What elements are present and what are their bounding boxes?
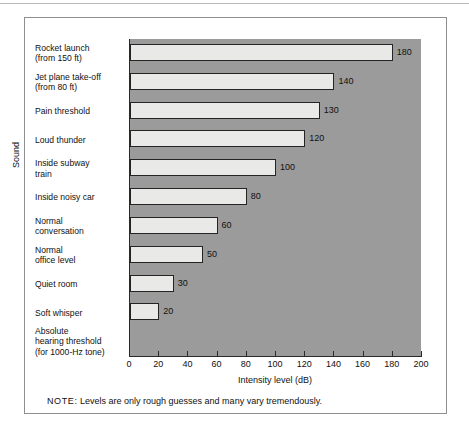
category-label-line: Absolute: [35, 326, 127, 337]
category-label: Normaloffice level: [35, 245, 127, 266]
x-axis-tick: [187, 351, 188, 357]
category-label-line: conversation: [35, 226, 127, 237]
bar-row: 120: [130, 125, 421, 154]
note-text: Levels are only rough guesses and many v…: [80, 396, 322, 406]
x-axis-tick: [275, 351, 276, 357]
category-label-line: Normal: [35, 245, 127, 256]
category-label-line: Jet plane take-off: [35, 72, 127, 83]
bar: [130, 303, 159, 320]
category-label-line: Quiet room: [35, 279, 127, 290]
bar: [130, 246, 203, 263]
x-axis-tick-label: 40: [182, 359, 192, 369]
bar: [130, 188, 247, 205]
x-axis-tick: [246, 351, 247, 357]
category-label: Normalconversation: [35, 216, 127, 237]
category-label-line: (from 80 ft): [35, 82, 127, 93]
plot-area: 1801401301201008060503020: [129, 39, 421, 356]
bar: [130, 159, 276, 176]
bar-row: 80: [130, 183, 421, 212]
bar-row: 50: [130, 241, 421, 270]
x-axis-tick: [333, 351, 334, 357]
bar-value-label: 140: [334, 73, 353, 90]
bar-value-label: 60: [218, 217, 232, 234]
category-label: Jet plane take-off(from 80 ft): [35, 72, 127, 93]
bar-value-label: 30: [174, 275, 188, 292]
x-axis: 020406080100120140160180200: [129, 356, 421, 357]
x-axis-tick-label: 140: [326, 359, 341, 369]
category-label: Absolutehearing threshold(for 1000-Hz to…: [35, 326, 127, 358]
category-label-line: hearing threshold: [35, 336, 127, 347]
figure-frame: Sound Rocket launch(from 150 ft)Jet plan…: [24, 17, 447, 414]
category-label-line: Rocket launch: [35, 43, 127, 54]
bar-value-label: 50: [203, 246, 217, 263]
bar-row: 180: [130, 39, 421, 68]
bar-row: 60: [130, 212, 421, 241]
x-axis-tick-label: 160: [355, 359, 370, 369]
bar-row: 140: [130, 68, 421, 97]
category-label: Inside subwaytrain: [35, 158, 127, 179]
bar: [130, 44, 393, 61]
bar-value-label: 100: [276, 159, 295, 176]
bar-value-label: 120: [305, 130, 324, 147]
category-label: Rocket launch(from 150 ft): [35, 43, 127, 64]
x-axis-tick-label: 200: [413, 359, 428, 369]
bar-row: 100: [130, 154, 421, 183]
x-axis-tick: [363, 351, 364, 357]
category-label-column: Rocket launch(from 150 ft)Jet plane take…: [35, 39, 127, 356]
category-label-line: Inside noisy car: [35, 192, 127, 203]
category-label: Soft whisper: [35, 308, 127, 319]
x-axis-tick: [421, 351, 422, 357]
category-label: Loud thunder: [35, 135, 127, 146]
bar-value-label: 130: [320, 102, 339, 119]
bar: [130, 102, 320, 119]
x-axis-tick-label: 0: [126, 359, 131, 369]
x-axis-tick-label: 180: [384, 359, 399, 369]
x-axis-tick: [129, 351, 130, 357]
category-label: Inside noisy car: [35, 192, 127, 203]
bar: [130, 217, 218, 234]
bar-value-label: 180: [393, 44, 412, 61]
bar-row: 20: [130, 298, 421, 327]
category-label-line: (from 150 ft): [35, 53, 127, 64]
category-label-line: train: [35, 169, 127, 180]
category-label-line: (for 1000-Hz tone): [35, 347, 127, 358]
x-axis-title: Intensity level (dB): [129, 375, 421, 385]
category-label: Pain threshold: [35, 106, 127, 117]
x-axis-tick: [392, 351, 393, 357]
category-label-line: office level: [35, 255, 127, 266]
category-label-line: Normal: [35, 216, 127, 227]
category-label-line: Pain threshold: [35, 106, 127, 117]
chart-note: NOTE: Levels are only rough guesses and …: [47, 396, 322, 406]
category-label: Quiet room: [35, 279, 127, 290]
bar: [130, 130, 305, 147]
bar-value-label: 80: [247, 188, 261, 205]
bar-value-label: 20: [159, 303, 173, 320]
category-label-line: Soft whisper: [35, 308, 127, 319]
x-axis-tick-label: 120: [297, 359, 312, 369]
category-label-line: Inside subway: [35, 158, 127, 169]
x-axis-tick: [304, 351, 305, 357]
top-divider-rule: [0, 3, 469, 4]
x-axis-tick-label: 80: [241, 359, 251, 369]
bar-row: 130: [130, 97, 421, 126]
x-axis-tick: [158, 351, 159, 357]
x-axis-tick: [217, 351, 218, 357]
x-axis-tick-label: 100: [267, 359, 282, 369]
bar: [130, 73, 334, 90]
x-axis-tick-label: 60: [212, 359, 222, 369]
note-label: NOTE:: [47, 396, 78, 406]
bar: [130, 275, 174, 292]
y-axis-title: Sound: [11, 142, 21, 168]
category-label-line: Loud thunder: [35, 135, 127, 146]
bar-row: 30: [130, 270, 421, 299]
x-axis-tick-label: 20: [153, 359, 163, 369]
